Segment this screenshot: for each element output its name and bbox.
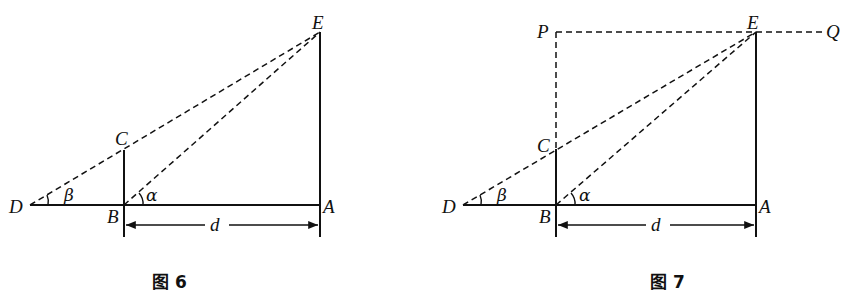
label-E: E bbox=[311, 12, 324, 33]
label-B: B bbox=[107, 206, 119, 227]
label-A: A bbox=[757, 196, 771, 217]
diagram-canvas: D B A C E β α d 图 6 D B A C E P Q β α d … bbox=[0, 0, 854, 301]
label-beta: β bbox=[496, 185, 507, 205]
label-beta: β bbox=[63, 185, 74, 205]
sightline-DE bbox=[30, 32, 320, 205]
label-alpha: α bbox=[579, 185, 591, 205]
label-d: d bbox=[651, 214, 661, 235]
caption-figure-7: 图 7 bbox=[650, 272, 685, 292]
label-D: D bbox=[441, 196, 456, 217]
sightline-BE bbox=[556, 32, 756, 205]
label-alpha: α bbox=[146, 185, 158, 205]
label-C: C bbox=[115, 128, 128, 149]
label-D: D bbox=[8, 196, 23, 217]
angle-alpha-arc bbox=[139, 193, 143, 205]
sightline-BE bbox=[124, 32, 320, 205]
figure-7: D B A C E P Q β α d 图 7 bbox=[441, 12, 840, 292]
label-C: C bbox=[537, 135, 550, 156]
label-Q: Q bbox=[826, 21, 840, 42]
caption-figure-6: 图 6 bbox=[152, 272, 187, 292]
figure-6: D B A C E β α d 图 6 bbox=[8, 12, 335, 292]
label-A: A bbox=[321, 196, 335, 217]
angle-beta-arc bbox=[480, 195, 481, 205]
sightline-DE bbox=[463, 32, 756, 205]
label-B: B bbox=[539, 206, 551, 227]
angle-beta-arc bbox=[47, 195, 48, 205]
angle-alpha-arc bbox=[571, 193, 575, 205]
label-E: E bbox=[746, 12, 759, 33]
label-d: d bbox=[210, 214, 220, 235]
label-P: P bbox=[536, 21, 549, 42]
